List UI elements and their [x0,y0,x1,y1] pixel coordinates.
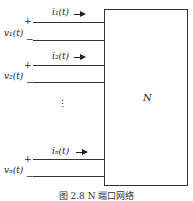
port-1-lower-wire [33,40,104,41]
current-arrow-2 [74,57,84,58]
voltage-label-n: vₙ(t) [4,165,23,175]
port-n-lower-wire [33,176,104,177]
ellipsis: ⋮ [58,100,64,109]
current-label-1: i₁(t) [52,7,69,17]
current-label-2: i₂(t) [52,51,69,61]
network-label: N [143,92,152,103]
plus-sign-n: + [24,155,32,164]
plus-sign-2: + [24,61,32,70]
port-2-upper-wire [33,65,104,66]
current-arrow-1 [74,14,84,15]
plus-sign-1: + [24,17,32,26]
current-arrow-n [76,152,86,153]
port-n-upper-wire [33,159,104,160]
current-label-n: iₙ(t) [52,146,69,156]
voltage-label-2: v₂(t) [4,71,23,81]
port-1-upper-wire [33,22,104,23]
n-port-network-diagram: N i₁(t) + v₁(t) − i₂(t) + v₂(t) − ⋮ iₙ(t… [0,0,193,201]
voltage-label-1: v₁(t) [4,28,23,38]
figure-caption: 图 2.8 N 端口网络 [0,191,193,201]
port-2-lower-wire [33,82,104,83]
